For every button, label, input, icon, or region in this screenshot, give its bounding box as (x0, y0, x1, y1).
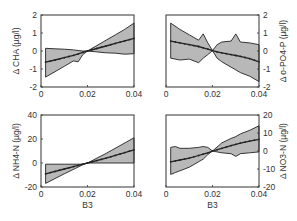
y-tick-label: 0 (263, 46, 268, 56)
data-point (193, 45, 195, 47)
x-tick-label: 0.02 (204, 89, 221, 99)
data-point (110, 44, 112, 46)
y-tick-label: 40 (28, 110, 38, 120)
data-point (105, 45, 107, 47)
y-tick-label: 20 (263, 110, 273, 120)
data-point (54, 171, 56, 173)
confidence-band (171, 23, 259, 82)
data-point (115, 43, 117, 45)
y-tick-label: 20 (28, 134, 38, 144)
data-point (212, 150, 214, 152)
y-tick-label: 2 (32, 10, 37, 20)
x-axis-label: B3 (207, 200, 218, 210)
data-point (54, 59, 56, 61)
data-point (184, 158, 186, 160)
x-tick-label: 0 (39, 89, 44, 99)
y-axis-label: Δ NO3-N (µg/l) (278, 123, 288, 179)
data-point (226, 146, 228, 148)
y-tick-label: 2 (263, 10, 268, 20)
data-point (124, 152, 126, 154)
data-point (188, 157, 190, 159)
data-point (179, 42, 181, 44)
data-point (129, 150, 131, 152)
data-point (193, 156, 195, 158)
x-tick-label: 0 (164, 189, 169, 199)
y-tick-label: 0 (32, 158, 37, 168)
panel-bottom-right: 00.020.04-20-1001020Δ NO3-N (µg/l)B3 (164, 110, 288, 210)
data-point (101, 46, 103, 48)
y-axis-label: Δ CHA (µg/l) (11, 27, 21, 74)
data-point (244, 57, 246, 59)
x-tick-label: 0.04 (126, 189, 143, 199)
data-point (68, 167, 70, 169)
data-point (170, 161, 172, 163)
data-point (179, 159, 181, 161)
x-tick-label: 0.02 (79, 89, 96, 99)
panel-bottom-left: 00.020.04-2002040Δ NH4-N (µg/l)B3 (11, 110, 143, 210)
data-point (254, 59, 256, 61)
data-point (230, 54, 232, 56)
data-point (119, 41, 121, 43)
data-point (63, 168, 65, 170)
x-tick-label: 0 (164, 89, 169, 99)
data-point (77, 165, 79, 167)
data-point (73, 54, 75, 56)
y-tick-label: 1 (263, 28, 268, 38)
y-tick-label: -20 (25, 182, 38, 192)
y-axis-label: Δ NH4-N (µg/l) (11, 123, 21, 179)
y-axis-label: Δ o-PO4-P (µg/l) (278, 20, 288, 83)
data-point (82, 163, 84, 165)
data-point (96, 160, 98, 162)
data-point (198, 46, 200, 48)
data-point (207, 152, 209, 154)
data-point (184, 43, 186, 45)
data-point (174, 41, 176, 43)
data-point (101, 159, 103, 161)
data-point (91, 49, 93, 51)
data-point (249, 140, 251, 142)
data-point (110, 156, 112, 158)
data-point (45, 173, 47, 175)
data-point (212, 50, 214, 52)
data-point (73, 166, 75, 168)
x-tick-label: 0 (39, 189, 44, 199)
data-point (119, 153, 121, 155)
y-tick-label: -1 (263, 64, 271, 74)
data-point (254, 139, 256, 141)
y-tick-label: -2 (263, 82, 271, 92)
data-point (221, 52, 223, 54)
data-point (244, 141, 246, 143)
data-point (174, 160, 176, 162)
data-point (59, 169, 61, 171)
y-tick-label: -1 (29, 64, 37, 74)
y-tick-label: -2 (29, 82, 37, 92)
data-point (202, 153, 204, 155)
data-point (240, 56, 242, 58)
data-point (82, 52, 84, 54)
data-point (188, 44, 190, 46)
y-tick-label: 0 (263, 146, 268, 156)
data-point (235, 55, 237, 57)
data-point (91, 161, 93, 163)
data-point (226, 53, 228, 55)
data-point (198, 155, 200, 157)
figure: 00.020.04-2-1012Δ CHA (µg/l)00.020.04-2-… (0, 0, 297, 221)
data-point (240, 142, 242, 144)
x-axis-label: B3 (82, 200, 93, 210)
data-point (45, 61, 47, 63)
data-point (207, 48, 209, 50)
data-point (49, 172, 51, 174)
data-point (216, 149, 218, 151)
x-tick-label: 0.02 (204, 189, 221, 199)
x-tick-label: 0.04 (126, 89, 143, 99)
data-point (202, 47, 204, 49)
y-tick-label: 10 (263, 128, 273, 138)
data-point (170, 40, 172, 42)
data-point (77, 53, 79, 55)
data-point (235, 143, 237, 145)
data-point (96, 48, 98, 50)
data-point (105, 157, 107, 159)
y-tick-label: -10 (263, 164, 276, 174)
data-point (230, 145, 232, 147)
data-point (87, 162, 89, 164)
